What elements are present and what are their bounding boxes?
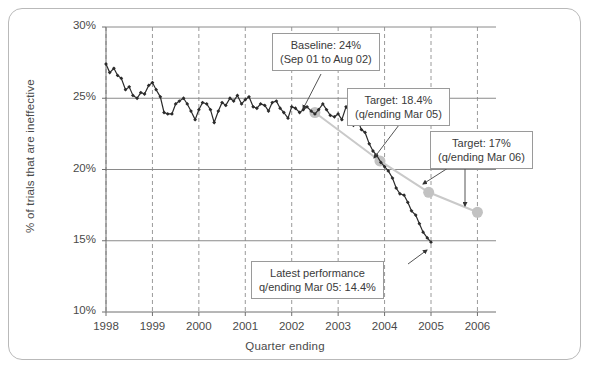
target-marker-3 bbox=[472, 207, 483, 218]
actual-marker-15 bbox=[162, 111, 166, 115]
actual-marker-10 bbox=[143, 92, 147, 96]
annotation-baseline-line1: Baseline: 24% bbox=[280, 38, 372, 52]
target-marker-2 bbox=[423, 187, 434, 198]
actual-marker-38 bbox=[251, 105, 255, 109]
annotation-latest-performance-line1: Latest performance bbox=[259, 266, 376, 280]
annotation-baseline: Baseline: 24% (Sep 01 to Aug 02) bbox=[272, 33, 380, 71]
x-tick-label-1998: 1998 bbox=[81, 320, 131, 332]
y-tick-label-20%: 20% bbox=[56, 162, 96, 174]
actual-marker-43 bbox=[270, 101, 274, 105]
y-tick-label-30%: 30% bbox=[56, 19, 96, 31]
actual-marker-17 bbox=[170, 112, 174, 116]
chart-plot-root: % of trials that are ineffective Quarter… bbox=[0, 0, 592, 373]
annotation-latest-performance: Latest performance q/ending Mar 05: 14.4… bbox=[251, 261, 384, 299]
annotation-target-mar-05-line2: (q/ending Mar 05) bbox=[355, 107, 442, 121]
leader-baseline bbox=[303, 74, 321, 109]
actual-marker-16 bbox=[166, 112, 170, 116]
x-tick-label-1999: 1999 bbox=[127, 320, 177, 332]
y-axis-label: % of trials that are ineffective bbox=[24, 66, 36, 246]
x-tick-label-2003: 2003 bbox=[313, 320, 363, 332]
x-tick-label-2000: 2000 bbox=[174, 320, 224, 332]
x-tick-label-2006: 2006 bbox=[452, 320, 502, 332]
y-tick-label-15%: 15% bbox=[56, 233, 96, 245]
annotation-target-mar-06: Target: 17% (q/ending Mar 06) bbox=[430, 131, 533, 169]
annotation-target-mar-06-line1: Target: 17% bbox=[438, 136, 525, 150]
x-axis-label: Quarter ending bbox=[105, 340, 465, 352]
leader-latest-performance bbox=[408, 250, 427, 264]
x-tick-label-2005: 2005 bbox=[406, 320, 456, 332]
annotation-target-mar-06-line2: (q/ending Mar 06) bbox=[438, 150, 525, 164]
x-tick-label-2004: 2004 bbox=[360, 320, 410, 332]
actual-marker-81 bbox=[417, 222, 421, 226]
y-tick-label-25%: 25% bbox=[56, 90, 96, 102]
annotation-latest-performance-line2: q/ending Mar 05: 14.4% bbox=[259, 280, 376, 294]
annotation-baseline-line2: (Sep 01 to Aug 02) bbox=[280, 52, 372, 66]
x-tick-label-2002: 2002 bbox=[267, 320, 317, 332]
actual-marker-48 bbox=[290, 105, 294, 109]
annotation-target-mar-05-line1: Target: 18.4% bbox=[355, 93, 442, 107]
actual-marker-23 bbox=[193, 118, 197, 122]
actual-marker-29 bbox=[216, 109, 220, 113]
leader-target-mar-05 bbox=[374, 125, 399, 158]
actual-marker-0 bbox=[104, 62, 108, 66]
y-tick-label-10%: 10% bbox=[56, 304, 96, 316]
leader-target-mar-06b bbox=[423, 168, 448, 184]
actual-marker-28 bbox=[212, 121, 216, 125]
annotation-target-mar-05: Target: 18.4% (q/ending Mar 05) bbox=[347, 88, 450, 126]
x-tick-label-2001: 2001 bbox=[220, 320, 270, 332]
